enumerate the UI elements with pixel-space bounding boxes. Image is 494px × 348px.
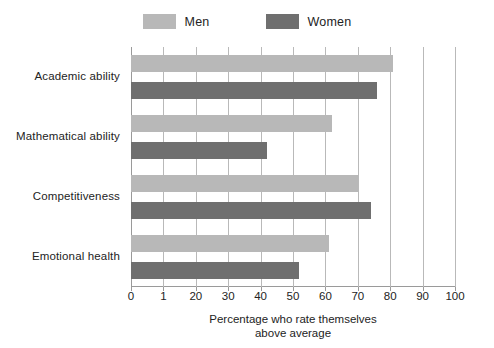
x-axis-title-line-2: above average [131,326,455,340]
bar-men-academic-ability [131,55,393,72]
gridline-100 [455,47,456,287]
x-tick-label-50: 50 [287,290,300,302]
x-tick-label-30: 30 [222,290,235,302]
bar-chart: Men Women Academic abilityMathematical a… [0,0,494,348]
legend-label-men: Men [185,15,210,29]
bar-women-emotional-health [131,262,299,279]
x-tick-label-70: 70 [351,290,364,302]
bar-men-competitiveness [131,175,358,192]
legend-swatch-women [266,14,299,29]
x-tick-label-20: 20 [189,290,202,302]
legend-entry-men: Men [143,14,210,29]
legend-entry-women: Women [266,14,352,29]
x-tick-label-60: 60 [319,290,332,302]
x-axis-tick-labels: 012030405060708090100 [131,290,455,306]
bar-men-emotional-health [131,235,329,252]
x-axis-title-line-1: Percentage who rate themselves [131,312,455,326]
x-axis-title: Percentage who rate themselves above ave… [131,312,455,340]
x-tick-label-40: 40 [254,290,267,302]
bar-men-mathematical-ability [131,115,332,132]
x-tick-label-100: 100 [445,290,464,302]
bar-women-academic-ability [131,82,377,99]
x-tick-label-90: 90 [416,290,429,302]
x-tick-label-10: 1 [160,290,166,302]
plot-area [131,47,455,287]
legend-label-women: Women [308,15,352,29]
bar-women-mathematical-ability [131,142,267,159]
chart-legend: Men Women [0,14,494,29]
y-axis-category-labels: Academic abilityMathematical abilityComp… [0,47,126,287]
y-axis-label-mathematical-ability: Mathematical ability [16,130,120,142]
bars [131,47,455,287]
x-tick-label-0: 0 [128,290,134,302]
y-axis-label-emotional-health: Emotional health [32,250,120,262]
y-axis-label-competitiveness: Competitiveness [33,190,120,202]
legend-swatch-men [143,14,176,29]
bar-women-competitiveness [131,202,371,219]
x-tick-label-80: 80 [384,290,397,302]
y-axis-label-academic-ability: Academic ability [35,70,121,82]
